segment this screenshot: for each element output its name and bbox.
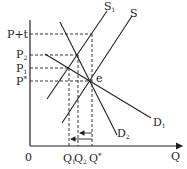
label-d2: D2 [117, 127, 130, 140]
label-q-star: Q* [89, 152, 102, 165]
label-p-star: P* [16, 75, 27, 88]
label-origin: 0 [25, 151, 32, 164]
demand-curve-d1 [45, 54, 151, 118]
label-p1: P1 [16, 62, 27, 75]
label-p2: P2 [16, 48, 27, 61]
label-x-axis-q: Q [171, 150, 180, 163]
supply-curve-s [62, 16, 132, 123]
label-s: S [130, 7, 138, 20]
label-equilibrium-e: e [96, 72, 103, 85]
label-p-plus-t: P+t [7, 28, 29, 41]
label-s1: S1 [104, 0, 115, 13]
label-q2: Q2 [74, 152, 87, 165]
supply-demand-diagram: P+t P2 P1 P* 0 Q Q1 Q2 Q* S1 S D1 D2 e [0, 0, 187, 169]
label-d1: D1 [153, 116, 166, 129]
